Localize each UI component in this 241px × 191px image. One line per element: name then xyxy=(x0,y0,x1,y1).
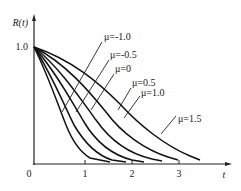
x-tick-label-3: 3 xyxy=(177,168,182,179)
leader-mu-minus-0.5 xyxy=(76,60,109,112)
leader-mu-1.0 xyxy=(124,96,140,118)
leader-mu-0.5 xyxy=(118,88,131,110)
x-tick-label-2: 2 xyxy=(130,168,135,179)
label-mu-0: μ=0 xyxy=(115,63,131,74)
origin-label: 0 xyxy=(27,168,32,179)
label-mu-1.5: μ=1.5 xyxy=(178,113,202,124)
label-mu-minus-1.0: μ=-1.0 xyxy=(104,31,131,42)
x-axis-label: t xyxy=(223,169,226,180)
reliability-chart: 0 1 2 3 t 1.0 R(t) μ=-1.0 μ=-0.5 μ=0 μ=0… xyxy=(0,0,241,191)
leader-mu-1.5 xyxy=(161,116,176,134)
y-axis-label: R(t) xyxy=(11,17,28,29)
y-axis-arrow-icon xyxy=(32,14,36,21)
x-axis-arrow-icon xyxy=(225,162,232,166)
leader-mu-0 xyxy=(91,74,114,110)
y-tick-label-1: 1.0 xyxy=(16,41,29,52)
label-mu-1.0: μ=1.0 xyxy=(141,87,165,98)
x-tick-label-1: 1 xyxy=(83,168,88,179)
curve-mu-0.5 xyxy=(34,47,162,161)
label-mu-minus-0.5: μ=-0.5 xyxy=(110,49,137,60)
